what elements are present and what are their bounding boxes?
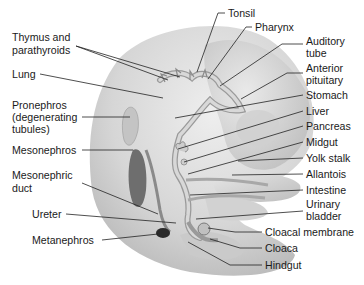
label-intestine: Intestine [306,184,346,196]
label-auditory-tube: Auditory tube [306,35,348,59]
label-ureter: Ureter [32,208,62,220]
label-liver: Liver [306,105,329,117]
label-midgut: Midgut [306,136,338,148]
label-cloaca: Cloaca [265,242,298,254]
label-yolk-stalk: Yolk stalk [306,152,351,164]
label-stomach: Stomach [306,89,348,101]
embryo-diagram: Thymus and parathyroids Lung Pronephros … [0,0,364,285]
label-lung: Lung [12,68,36,80]
label-urinary-bladder: Urinary bladder [306,198,343,222]
label-cloacal-membrane: Cloacal membrane [265,226,354,238]
label-thymus-parathyroids: Thymus and parathyroids [12,31,73,56]
labels-left: Thymus and parathyroids Lung Pronephros … [12,31,94,246]
label-hindgut: Hindgut [265,259,302,271]
label-anterior-pituitary: Anterior pituitary [306,62,346,86]
label-allantois: Allantois [306,168,346,180]
label-tonsil: Tonsil [228,7,255,19]
label-pancreas: Pancreas [306,120,351,132]
label-pharynx: Pharynx [255,21,295,33]
label-metanephros: Metanephros [32,234,94,246]
label-pronephros: Pronephros (degenerating tubules) [12,99,80,135]
metanephros-structure [156,228,170,238]
label-mesonephric-duct: Mesonephric duct [12,169,76,194]
label-mesonephros: Mesonephros [12,144,76,156]
